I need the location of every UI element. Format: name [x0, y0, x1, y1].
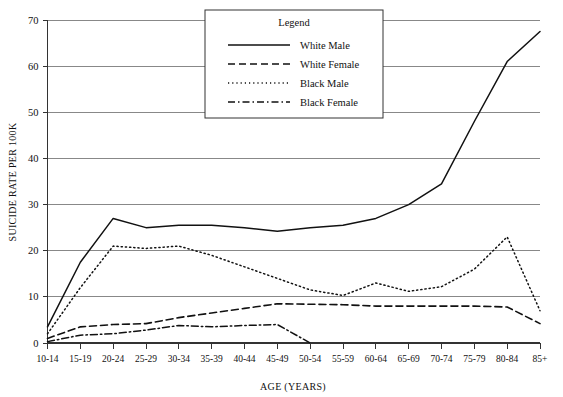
- y-axis-title: SUICIDE RATE PER 100K: [7, 122, 18, 241]
- x-tick-label-80-84: 80-84: [496, 354, 518, 364]
- x-tick-label-65-69: 65-69: [398, 354, 420, 364]
- y-tick-label-30: 30: [28, 199, 39, 210]
- legend-label-black-female: Black Female: [300, 97, 358, 108]
- y-tick-label-0: 0: [33, 338, 38, 349]
- chart-container: 010203040506070 10-1415-1920-2425-2930-3…: [0, 0, 563, 397]
- legend-label-white-female: White Female: [300, 59, 360, 70]
- x-tick-label-30-34: 30-34: [168, 354, 190, 364]
- x-tick-label-60-64: 60-64: [365, 354, 387, 364]
- x-tick-label-20-24: 20-24: [102, 354, 124, 364]
- x-tick-label-45-49: 45-49: [266, 354, 288, 364]
- x-tick-label-25-29: 25-29: [135, 354, 157, 364]
- y-tick-label-70: 70: [28, 15, 39, 26]
- y-tick-label-20: 20: [28, 245, 39, 256]
- x-tick-label-55-59: 55-59: [332, 354, 354, 364]
- suicide-rate-line-chart: 010203040506070 10-1415-1920-2425-2930-3…: [0, 0, 563, 397]
- x-tick-label-85+: 85+: [533, 354, 548, 364]
- x-tick-label-10-14: 10-14: [36, 354, 58, 364]
- x-tick-label-70-74: 70-74: [430, 354, 452, 364]
- x-tick-label-40-44: 40-44: [233, 354, 255, 364]
- x-tick-label-35-39: 35-39: [201, 354, 223, 364]
- x-tick-label-75-79: 75-79: [463, 354, 485, 364]
- legend-title: Legend: [278, 17, 310, 28]
- y-tick-label-40: 40: [28, 153, 39, 164]
- legend-label-white-male: White Male: [300, 40, 350, 51]
- legend-label-black-male: Black Male: [300, 78, 349, 89]
- x-axis-title: AGE (YEARS): [260, 381, 326, 393]
- y-tick-label-10: 10: [28, 291, 39, 302]
- y-tick-label-50: 50: [28, 107, 39, 118]
- x-tick-label-15-19: 15-19: [69, 354, 91, 364]
- x-tick-label-50-54: 50-54: [299, 354, 321, 364]
- y-tick-label-60: 60: [28, 61, 39, 72]
- legend: Legend White MaleWhite FemaleBlack MaleB…: [205, 10, 383, 118]
